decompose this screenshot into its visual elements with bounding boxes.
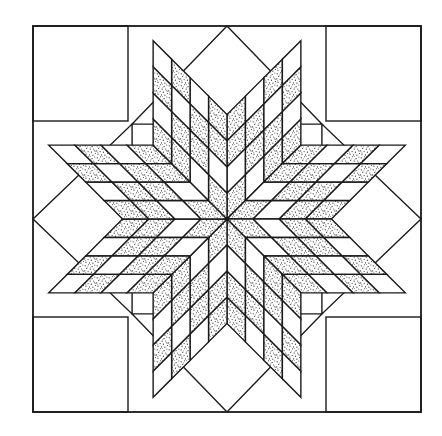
corner-square-bottom-left [33, 317, 128, 412]
corner-square-top-right [326, 26, 421, 121]
corner-square-top-left [33, 26, 128, 121]
corner-square-bottom-right [326, 317, 421, 412]
quilt-block-figure [0, 0, 442, 436]
quilt-block-svg [0, 0, 442, 436]
